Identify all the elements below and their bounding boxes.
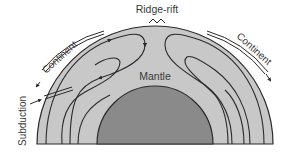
mantle-convection-diagram: Ridge-rift Mantle Continent Continent Su… bbox=[0, 0, 287, 152]
ridge-rift-label: Ridge-rift bbox=[136, 3, 179, 15]
subduction-label: Subduction bbox=[17, 96, 28, 146]
ridge-rift-marker bbox=[149, 19, 165, 23]
mantle-label: Mantle bbox=[139, 70, 171, 82]
